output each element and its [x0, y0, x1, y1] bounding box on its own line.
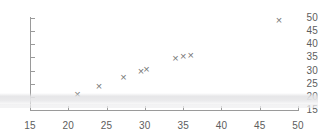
y-axis-tick-label: 15 [292, 104, 318, 115]
y-axis-tick [31, 84, 35, 85]
x-axis-tick-label: 20 [56, 120, 80, 131]
x-axis-tick-label: 15 [18, 120, 42, 131]
x-axis-tick-label: 50 [286, 120, 310, 131]
x-axis-tick-label: 40 [209, 120, 233, 131]
x-axis-tick-label: 25 [95, 120, 119, 131]
x-axis-tick [68, 106, 69, 111]
y-axis-tick-label: 35 [292, 51, 318, 62]
y-axis-tick [31, 71, 35, 72]
y-axis-tick [31, 18, 35, 19]
y-axis-tick-label: 40 [292, 38, 318, 49]
x-axis-tick [145, 106, 146, 111]
x-axis-tick-label: 35 [171, 120, 195, 131]
x-axis-tick [260, 106, 261, 111]
data-point [73, 90, 82, 99]
x-axis-tick [107, 106, 108, 111]
x-axis-tick [298, 106, 299, 111]
x-axis-tick-label: 45 [248, 120, 272, 131]
y-axis-tick-label: 30 [292, 65, 318, 76]
y-axis-tick [31, 97, 35, 98]
y-axis-tick-label: 50 [292, 12, 318, 23]
data-point [119, 73, 128, 82]
data-point [142, 65, 151, 74]
data-point [274, 16, 283, 25]
y-axis-tick-label: 45 [292, 25, 318, 36]
x-axis-tick-label: 30 [133, 120, 157, 131]
x-axis-tick [183, 106, 184, 111]
y-axis-tick [31, 31, 35, 32]
x-axis-tick [30, 106, 31, 111]
y-axis-tick-label: 20 [292, 91, 318, 102]
scan-artifact-band [0, 93, 318, 106]
data-point [186, 51, 195, 60]
data-point [94, 82, 103, 91]
y-axis-tick [31, 44, 35, 45]
y-axis-tick-label: 25 [292, 78, 318, 89]
y-axis-tick [31, 110, 35, 111]
x-axis-line [30, 110, 299, 111]
x-axis-tick [221, 106, 222, 111]
y-axis-tick [31, 57, 35, 58]
scatter-plot-figure: 1520253035404550 1520253035404550 [0, 0, 318, 135]
scan-artifact-band-lower [0, 104, 318, 108]
